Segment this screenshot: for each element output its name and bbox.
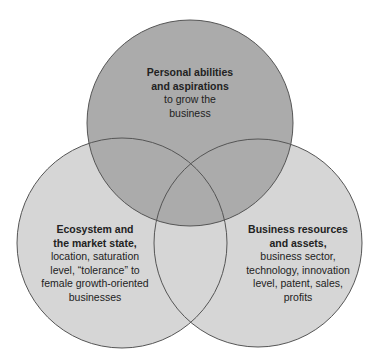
label-resources-body-4: profits bbox=[234, 291, 362, 305]
circle-personal bbox=[87, 20, 293, 226]
venn-diagram bbox=[0, 0, 380, 363]
label-ecosystem: Ecosystem and the market state, location… bbox=[32, 223, 158, 304]
label-ecosystem-title-2: the market state, bbox=[32, 237, 158, 251]
label-ecosystem-body-1: location, saturation bbox=[32, 250, 158, 264]
label-resources-title-1: Business resources bbox=[234, 223, 362, 237]
label-resources-body-2: technology, innovation bbox=[234, 264, 362, 278]
label-personal-title-2: and aspirations bbox=[130, 80, 250, 94]
label-resources-title-2: and assets, bbox=[234, 237, 362, 251]
label-ecosystem-body-3: female growth-oriented bbox=[32, 277, 158, 291]
label-resources-body-3: level, patent, sales, bbox=[234, 277, 362, 291]
label-resources-body-1: business sector, bbox=[234, 250, 362, 264]
label-personal: Personal abilities and aspirations to gr… bbox=[130, 66, 250, 120]
label-personal-title-1: Personal abilities bbox=[130, 66, 250, 80]
label-personal-body-2: business bbox=[130, 107, 250, 121]
label-ecosystem-title-1: Ecosystem and bbox=[32, 223, 158, 237]
label-resources: Business resources and assets, business … bbox=[234, 223, 362, 304]
label-personal-body-1: to grow the bbox=[130, 93, 250, 107]
label-ecosystem-body-4: businesses bbox=[32, 291, 158, 305]
label-ecosystem-body-2: level, “tolerance” to bbox=[32, 264, 158, 278]
